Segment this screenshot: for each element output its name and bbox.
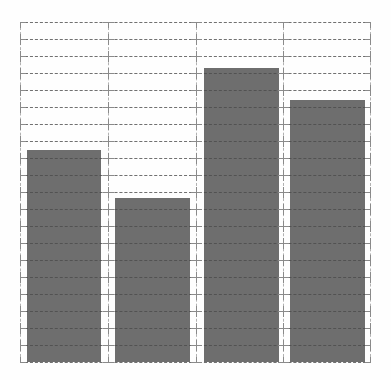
axis-tick-vertical	[196, 255, 197, 266]
axis-tick-vertical	[20, 22, 21, 28]
axis-tick-vertical	[370, 272, 371, 283]
axis-tick-vertical	[370, 85, 371, 96]
axis-tick-vertical	[370, 187, 371, 198]
axis-tick-vertical	[283, 119, 284, 130]
axis-tick-vertical	[108, 102, 109, 113]
axis-tick-vertical	[370, 255, 371, 266]
axis-tick-vertical	[108, 306, 109, 317]
axis-tick-vertical	[108, 221, 109, 232]
axis-tick-vertical	[283, 34, 284, 45]
axis-tick-vertical	[20, 340, 21, 351]
axis-tick-vertical	[370, 102, 371, 113]
axis-tick-vertical	[196, 102, 197, 113]
axis-tick-vertical	[108, 323, 109, 334]
axis-tick-vertical	[20, 119, 21, 130]
axis-tick-vertical	[283, 68, 284, 79]
axis-tick-vertical	[196, 340, 197, 351]
axis-tick-vertical	[283, 170, 284, 181]
axis-tick-vertical	[370, 34, 371, 45]
axis-tick-vertical	[196, 323, 197, 334]
axis-tick-vertical	[370, 51, 371, 62]
axis-tick-vertical	[370, 119, 371, 130]
bar-3[interactable]	[204, 68, 279, 362]
bar-1[interactable]	[27, 150, 101, 362]
axis-tick-vertical	[196, 119, 197, 130]
axis-tick-vertical	[283, 221, 284, 232]
axis-tick-vertical	[108, 255, 109, 266]
axis-tick-vertical	[283, 306, 284, 317]
axis-tick-vertical	[283, 289, 284, 300]
axis-tick-vertical	[196, 187, 197, 198]
axis-tick-vertical	[108, 170, 109, 181]
axis-tick-vertical	[20, 34, 21, 45]
axis-tick-vertical	[20, 136, 21, 147]
axis-tick-vertical	[108, 51, 109, 62]
axis-tick-vertical	[370, 204, 371, 215]
axis-tick-vertical	[283, 153, 284, 164]
axis-tick-vertical	[20, 323, 21, 334]
axis-tick-vertical	[370, 340, 371, 351]
axis-tick-vertical	[283, 340, 284, 351]
axis-tick-vertical	[370, 153, 371, 164]
axis-tick-vertical	[20, 170, 21, 181]
bar-4[interactable]	[290, 100, 365, 362]
axis-tick-vertical	[283, 357, 284, 363]
axis-tick-vertical	[108, 340, 109, 351]
axis-tick-vertical	[283, 136, 284, 147]
axis-tick-vertical	[283, 323, 284, 334]
axis-tick-vertical	[108, 136, 109, 147]
axis-tick-vertical	[108, 34, 109, 45]
axis-tick-vertical	[283, 238, 284, 249]
axis-tick-vertical	[196, 136, 197, 147]
bar-chart-figure	[0, 0, 391, 380]
axis-tick-vertical	[20, 255, 21, 266]
axis-tick-vertical	[108, 22, 109, 28]
axis-tick-vertical	[370, 238, 371, 249]
axis-tick-vertical	[20, 238, 21, 249]
axis-tick-vertical	[370, 221, 371, 232]
axis-tick-vertical	[196, 289, 197, 300]
axis-tick-vertical	[370, 22, 371, 28]
axis-tick-vertical	[196, 306, 197, 317]
axis-tick-vertical	[108, 204, 109, 215]
bar-2[interactable]	[115, 198, 190, 362]
axis-tick-vertical	[108, 85, 109, 96]
axis-tick-vertical	[370, 357, 371, 363]
axis-tick-vertical	[370, 306, 371, 317]
axis-tick-vertical	[196, 22, 197, 28]
axis-tick-vertical	[283, 85, 284, 96]
axis-tick-vertical	[108, 238, 109, 249]
axis-tick-vertical	[196, 85, 197, 96]
axis-tick-vertical	[20, 289, 21, 300]
axis-tick-vertical	[370, 289, 371, 300]
axis-tick-vertical	[108, 187, 109, 198]
axis-tick-vertical	[20, 272, 21, 283]
axis-tick-vertical	[108, 153, 109, 164]
axis-tick-vertical	[20, 204, 21, 215]
axis-tick-vertical	[20, 306, 21, 317]
axis-tick-vertical	[283, 272, 284, 283]
axis-tick-vertical	[20, 357, 21, 363]
axis-tick-vertical	[20, 187, 21, 198]
axis-tick-vertical	[20, 153, 21, 164]
plot-area	[20, 22, 371, 362]
axis-tick-vertical	[108, 68, 109, 79]
axis-tick-vertical	[20, 68, 21, 79]
axis-tick-vertical	[196, 357, 197, 363]
axis-tick-vertical	[283, 204, 284, 215]
axis-tick-vertical	[370, 136, 371, 147]
axis-tick-vertical	[196, 51, 197, 62]
axis-tick-vertical	[20, 51, 21, 62]
axis-tick-vertical	[196, 34, 197, 45]
axis-tick-vertical	[196, 204, 197, 215]
axis-tick-vertical	[196, 272, 197, 283]
axis-tick-vertical	[20, 102, 21, 113]
axis-tick-vertical	[283, 187, 284, 198]
axis-tick-vertical	[196, 170, 197, 181]
axis-tick-vertical	[370, 323, 371, 334]
axis-tick-vertical	[108, 357, 109, 363]
axis-tick-vertical	[370, 170, 371, 181]
axis-tick-vertical	[283, 102, 284, 113]
axis-tick-vertical	[196, 238, 197, 249]
axis-tick-vertical	[20, 85, 21, 96]
